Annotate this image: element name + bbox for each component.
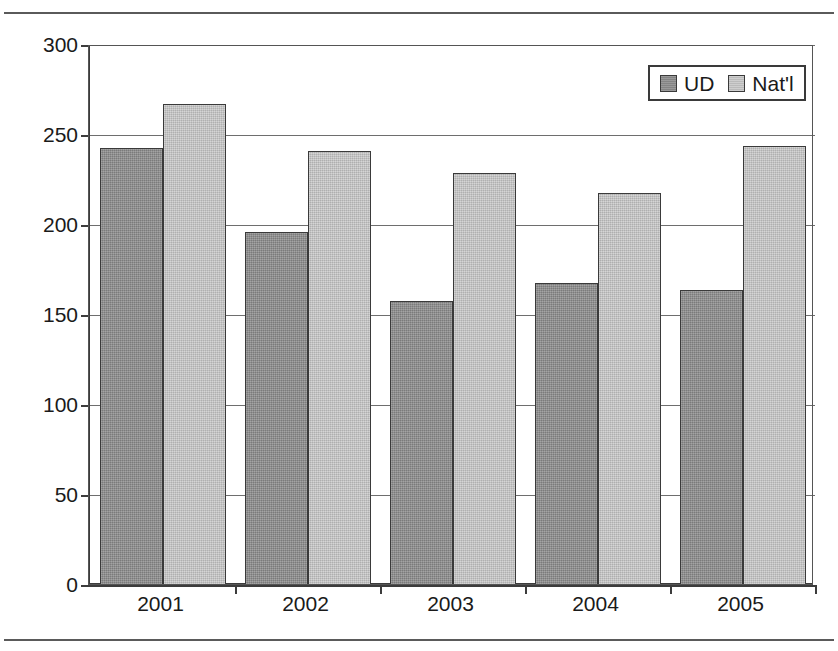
- legend-entry-natl: Nat'l: [728, 73, 793, 94]
- y-tick-150: [81, 315, 90, 317]
- legend-swatch-icon: [660, 75, 677, 92]
- top-rule: [4, 12, 834, 14]
- gridline-300: [90, 45, 815, 46]
- gridline-0: [90, 585, 815, 587]
- bottom-rule: [4, 639, 834, 641]
- bar-natl-2005: [743, 146, 806, 585]
- legend-entry-ud: UD: [660, 73, 714, 94]
- legend-label: Nat'l: [752, 73, 793, 94]
- bar-natl-2001: [163, 104, 226, 585]
- x-axis-tick-label: 2001: [88, 592, 233, 616]
- bar-ud-2002: [245, 232, 308, 585]
- figure: 050100150200250300 20012002200320042005 …: [0, 0, 838, 651]
- x-axis-tick-label: 2004: [523, 592, 668, 616]
- y-tick-200: [81, 225, 90, 227]
- y-axis-tick-label: 50: [16, 484, 78, 505]
- x-axis-tick-label: 2005: [668, 592, 813, 616]
- x-tick-2005: [815, 585, 817, 594]
- bar-natl-2004: [598, 193, 661, 585]
- y-axis-tick-label: 250: [16, 124, 78, 145]
- legend-label: UD: [684, 73, 714, 94]
- x-axis-tick-label: 2003: [378, 592, 523, 616]
- y-tick-300: [81, 45, 90, 47]
- y-axis-tick-label: 150: [16, 304, 78, 325]
- y-tick-0: [81, 585, 90, 587]
- x-axis-tick-label: 2002: [233, 592, 378, 616]
- bar-ud-2003: [390, 301, 453, 585]
- y-tick-250: [81, 135, 90, 137]
- bar-natl-2002: [308, 151, 371, 585]
- plot-area: [88, 45, 813, 585]
- y-tick-100: [81, 405, 90, 407]
- bar-ud-2004: [535, 283, 598, 585]
- x-axis-labels: 20012002200320042005: [88, 592, 813, 624]
- y-axis-tick-label: 300: [16, 34, 78, 55]
- bar-natl-2003: [453, 173, 516, 585]
- legend-swatch-icon: [728, 75, 745, 92]
- y-axis-tick-label: 100: [16, 394, 78, 415]
- legend: UDNat'l: [648, 65, 806, 101]
- y-axis-tick-label: 0: [16, 574, 78, 595]
- y-axis-tick-label: 200: [16, 214, 78, 235]
- bar-ud-2001: [100, 148, 163, 585]
- y-axis-labels: 050100150200250300: [10, 45, 78, 585]
- bar-ud-2005: [680, 290, 743, 585]
- y-tick-50: [81, 495, 90, 497]
